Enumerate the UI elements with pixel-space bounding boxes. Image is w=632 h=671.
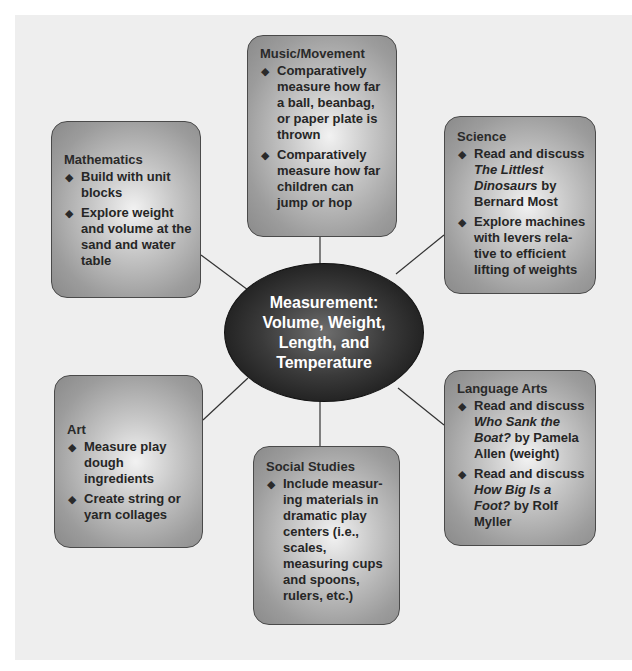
diamond-bullet-icon: ◆ <box>65 169 73 185</box>
node-title: Language Arts <box>457 381 587 396</box>
node-mathematics: Mathematics ◆Build with unit blocks ◆Exp… <box>51 121 201 298</box>
node-language-arts: Language Arts ◆Read and discuss Who Sank… <box>444 370 596 546</box>
node-music-movement: Music/Movement ◆Comparatively measure ho… <box>247 35 397 237</box>
list-item: ◆Create string or yarn collages <box>67 491 194 523</box>
diamond-bullet-icon: ◆ <box>68 491 76 507</box>
diamond-bullet-icon: ◆ <box>261 63 269 79</box>
diamond-bullet-icon: ◆ <box>267 476 275 492</box>
diamond-bullet-icon: ◆ <box>458 146 466 162</box>
connector-language <box>398 388 444 425</box>
list-item: ◆Build with unit blocks <box>64 169 192 201</box>
list-item: ◆Read and discuss How Big Is a Foot? by … <box>457 466 587 530</box>
list-item: ◆Read and discuss Who Sank the Boat? by … <box>457 398 587 462</box>
diamond-bullet-icon: ◆ <box>458 214 466 230</box>
list-item: ◆Explore weight and volume at the sand a… <box>64 205 192 269</box>
diamond-bullet-icon: ◆ <box>65 205 73 221</box>
diamond-bullet-icon: ◆ <box>458 398 466 414</box>
diamond-bullet-icon: ◆ <box>261 147 269 163</box>
node-social-studies: Social Studies ◆Include measur-ing mater… <box>253 446 400 625</box>
central-topic-ellipse: Measurement: Volume, Weight, Length, and… <box>224 263 424 402</box>
node-science: Science ◆Read and discuss The Littlest D… <box>444 116 596 294</box>
list-item: ◆Measure play dough ingredients <box>67 439 194 487</box>
list-item: ◆Include measur-ing materials in dramati… <box>266 476 391 604</box>
node-title: Mathematics <box>64 152 192 167</box>
list-item: ◆Explore machines with levers rela-tive … <box>457 214 587 278</box>
list-item: ◆Comparatively measure how far children … <box>260 147 388 211</box>
connector-art <box>203 378 248 420</box>
node-title: Science <box>457 129 587 144</box>
connector-science <box>396 235 444 274</box>
node-art: Art ◆Measure play dough ingredients ◆Cre… <box>54 375 203 548</box>
list-item: ◆Read and discuss The Littlest Dinosaurs… <box>457 146 587 210</box>
central-topic-text: Measurement: Volume, Weight, Length, and… <box>239 293 409 373</box>
diamond-bullet-icon: ◆ <box>458 466 466 482</box>
list-item: ◆Comparatively measure how far a ball, b… <box>260 63 388 143</box>
node-title: Art <box>67 422 194 437</box>
book-title: The Littlest Dinosaurs <box>474 162 543 193</box>
connector-math <box>201 255 248 290</box>
node-title: Social Studies <box>266 459 391 474</box>
diamond-bullet-icon: ◆ <box>68 439 76 455</box>
node-title: Music/Movement <box>260 46 388 61</box>
